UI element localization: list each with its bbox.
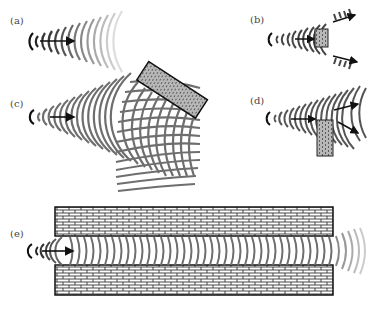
- sound-propagation-diagram: (a) (b): [0, 0, 379, 310]
- partial-wall: [317, 120, 333, 156]
- exit-waves: [336, 228, 365, 274]
- lower-wall: [55, 265, 333, 295]
- arrow-icon: [338, 122, 358, 133]
- upper-wall: [55, 207, 333, 236]
- panel-b: (b): [250, 9, 357, 69]
- panel-label-d: (d): [250, 95, 264, 106]
- channelled-waves: [70, 237, 332, 265]
- obstacle-block: [315, 29, 328, 47]
- panel-label-c: (c): [10, 98, 24, 109]
- panel-label-a: (a): [10, 15, 24, 26]
- panel-d: (d): [250, 86, 366, 156]
- panel-a: (a): [10, 11, 122, 72]
- panel-e: (e): [10, 207, 365, 295]
- panel-label-e: (e): [10, 228, 24, 239]
- panel-c: (c): [10, 62, 207, 191]
- panel-label-b: (b): [250, 14, 264, 25]
